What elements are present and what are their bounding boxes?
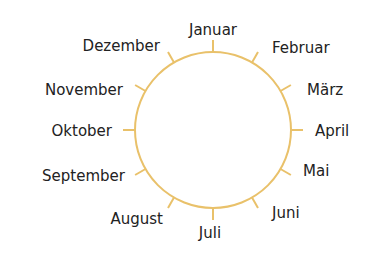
month-label-juni: Juni — [272, 204, 300, 222]
month-circle-diagram: Januar Februar März April Mai Juni Juli … — [0, 0, 375, 253]
month-label-november: November — [45, 81, 123, 99]
month-label-august: August — [111, 210, 164, 228]
month-label-januar: Januar — [189, 21, 237, 39]
month-label-mai: Mai — [303, 162, 329, 180]
month-tick — [135, 169, 145, 175]
month-tick — [281, 85, 291, 91]
month-label-oktober: Oktober — [52, 122, 112, 140]
month-tick — [168, 52, 174, 62]
month-tick — [252, 52, 258, 62]
month-label-maerz: März — [307, 81, 343, 99]
month-tick — [252, 198, 258, 208]
month-label-juli: Juli — [199, 224, 221, 242]
month-label-dezember: Dezember — [83, 37, 160, 55]
ring-circle — [135, 52, 291, 208]
month-label-februar: Februar — [272, 39, 330, 57]
month-tick — [281, 169, 291, 175]
month-label-september: September — [42, 167, 125, 185]
month-label-april: April — [315, 122, 349, 140]
month-tick — [135, 85, 145, 91]
month-tick — [168, 198, 174, 208]
